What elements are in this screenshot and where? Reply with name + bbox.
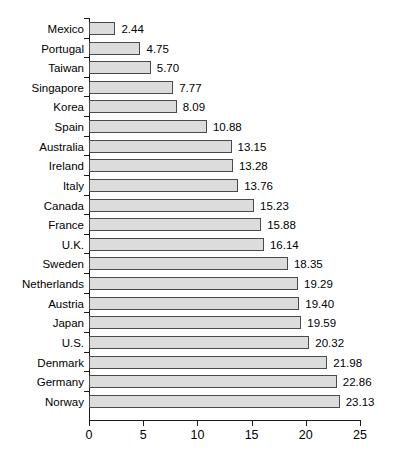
bar-row: Sweden18.35 <box>0 257 400 271</box>
y-axis-tick <box>84 77 89 78</box>
bar <box>89 61 151 74</box>
category-label-sweden: Sweden <box>42 257 84 271</box>
category-label-taiwan: Taiwan <box>48 61 84 75</box>
x-axis-line <box>89 420 361 421</box>
bar-value-label: 15.23 <box>260 199 289 213</box>
y-axis-tick <box>84 234 89 235</box>
bar-value-label: 13.15 <box>238 140 267 154</box>
bar-value-label: 2.44 <box>121 22 143 36</box>
category-label-mexico: Mexico <box>48 22 84 36</box>
x-axis-tick <box>197 421 198 426</box>
x-axis-tick <box>360 421 361 426</box>
bar <box>89 238 264 251</box>
y-axis-tick <box>84 332 89 333</box>
bar-value-label: 10.88 <box>213 120 242 134</box>
y-axis-tick <box>84 253 89 254</box>
bar-value-label: 18.35 <box>294 257 323 271</box>
x-axis-tick-label: 25 <box>340 428 380 442</box>
bar-value-label: 13.28 <box>239 159 268 173</box>
bar <box>89 179 238 192</box>
bar <box>89 316 301 329</box>
bar-row: Mexico2.44 <box>0 22 400 36</box>
bar-row: Denmark21.98 <box>0 356 400 370</box>
y-axis-tick <box>84 391 89 392</box>
y-axis-tick <box>84 38 89 39</box>
category-label-australia: Australia <box>39 140 84 154</box>
bar <box>89 140 232 153</box>
x-axis-tick <box>143 421 144 426</box>
category-label-korea: Korea <box>53 100 84 114</box>
bar-value-label: 15.88 <box>267 218 296 232</box>
category-label-u-s: U.S. <box>62 336 84 350</box>
bar-row: Portugal4.75 <box>0 42 400 56</box>
x-axis-tick-label: 10 <box>177 428 217 442</box>
category-label-germany: Germany <box>37 375 84 389</box>
bar-row: Japan19.59 <box>0 316 400 330</box>
bar-row: Austria19.40 <box>0 297 400 311</box>
bar-value-label: 19.40 <box>305 297 334 311</box>
bar-value-label: 19.59 <box>307 316 336 330</box>
bar <box>89 297 299 310</box>
y-axis-tick <box>84 96 89 97</box>
x-axis-tick-label: 0 <box>69 428 109 442</box>
x-axis-tick <box>306 421 307 426</box>
bar <box>89 159 233 172</box>
bar-value-label: 5.70 <box>157 61 179 75</box>
bar-row: U.K.16.14 <box>0 238 400 252</box>
bar <box>89 218 261 231</box>
y-axis-tick <box>84 195 89 196</box>
y-axis-tick <box>84 312 89 313</box>
bar-value-label: 8.09 <box>183 100 205 114</box>
x-axis-tick <box>252 421 253 426</box>
y-axis-tick <box>84 136 89 137</box>
bar-row: U.S.20.32 <box>0 336 400 350</box>
bar-row: Ireland13.28 <box>0 159 400 173</box>
category-label-france: France <box>48 218 84 232</box>
category-label-netherlands: Netherlands <box>22 277 84 291</box>
bar-value-label: 20.32 <box>315 336 344 350</box>
bar-value-label: 4.75 <box>146 42 168 56</box>
y-axis-tick <box>84 116 89 117</box>
bar-value-label: 23.13 <box>346 395 375 409</box>
bar-row: Norway23.13 <box>0 395 400 409</box>
y-axis-tick <box>84 293 89 294</box>
bar-row: Singapore7.77 <box>0 81 400 95</box>
category-label-canada: Canada <box>44 199 84 213</box>
category-label-denmark: Denmark <box>37 356 84 370</box>
bar-row: Netherlands19.29 <box>0 277 400 291</box>
category-label-austria: Austria <box>48 297 84 311</box>
bar-row: Australia13.15 <box>0 140 400 154</box>
bar-chart: Mexico2.44Portugal4.75Taiwan5.70Singapor… <box>0 0 400 464</box>
bar-value-label: 21.98 <box>333 356 362 370</box>
bar <box>89 336 309 349</box>
bar <box>89 199 254 212</box>
category-label-japan: Japan <box>53 316 84 330</box>
bar <box>89 395 340 408</box>
bar-row: Taiwan5.70 <box>0 61 400 75</box>
category-label-singapore: Singapore <box>32 81 84 95</box>
bar-value-label: 7.77 <box>179 81 201 95</box>
category-label-norway: Norway <box>45 395 84 409</box>
y-axis-tick <box>84 155 89 156</box>
y-axis-tick <box>84 371 89 372</box>
y-axis-tick <box>84 352 89 353</box>
category-label-spain: Spain <box>55 120 84 134</box>
bar <box>89 356 327 369</box>
x-axis-tick <box>89 421 90 426</box>
bar-row: Canada15.23 <box>0 199 400 213</box>
y-axis-tick <box>84 273 89 274</box>
category-label-italy: Italy <box>63 179 84 193</box>
bar-row: Germany22.86 <box>0 375 400 389</box>
bar-row: Korea8.09 <box>0 100 400 114</box>
y-axis-tick <box>84 57 89 58</box>
bar-row: France15.88 <box>0 218 400 232</box>
bar-value-label: 22.86 <box>343 375 372 389</box>
bar <box>89 42 140 55</box>
bar-row: Italy13.76 <box>0 179 400 193</box>
bar-value-label: 16.14 <box>270 238 299 252</box>
bar <box>89 22 115 35</box>
category-label-ireland: Ireland <box>49 159 84 173</box>
bar <box>89 257 288 270</box>
category-label-portugal: Portugal <box>41 42 84 56</box>
bar <box>89 81 173 94</box>
